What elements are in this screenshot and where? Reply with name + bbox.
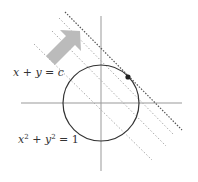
tangent-level-line [65, 12, 182, 130]
diagram-canvas [0, 0, 198, 182]
increase-direction-arrow-icon [46, 30, 81, 65]
line-equation-label: x + y = c [13, 66, 64, 79]
circle-equation-label: x2 + y2 = 1 [18, 133, 79, 146]
tangent-point [125, 74, 130, 79]
